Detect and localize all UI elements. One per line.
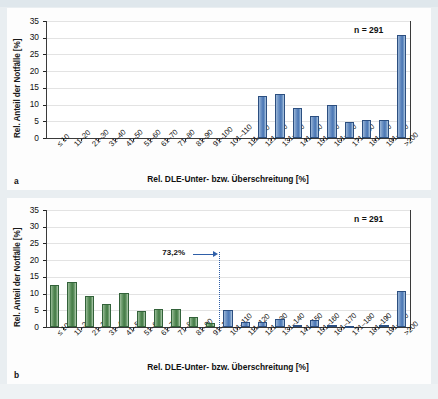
gridline xyxy=(46,121,410,122)
gridline xyxy=(46,260,410,261)
bar xyxy=(310,320,319,327)
y-axis-tick-label: 30 xyxy=(23,33,39,41)
page-top-strip xyxy=(0,0,438,7)
y-axis xyxy=(46,21,47,139)
bar xyxy=(85,296,94,327)
bar xyxy=(327,105,336,138)
cumulative-marker-label: 73,2% xyxy=(162,248,185,257)
y-axis-tick-label: 10 xyxy=(23,289,39,297)
gridline xyxy=(46,210,410,211)
y-axis-tick-label: 0 xyxy=(23,134,39,142)
y-axis-tick-label: 25 xyxy=(23,239,39,247)
y-axis-tick-label: 30 xyxy=(23,222,39,230)
gridline xyxy=(46,227,410,228)
cumulative-marker-line xyxy=(219,252,220,327)
bar xyxy=(362,120,371,138)
cumulative-marker-arrow-head xyxy=(213,251,218,257)
y-axis-tick-label: 35 xyxy=(23,206,39,214)
panel-letter-b: b xyxy=(14,370,19,380)
bar xyxy=(345,122,354,138)
gridline xyxy=(46,243,410,244)
y-axis-tick-label: 15 xyxy=(23,272,39,280)
cumulative-marker-arrow-line xyxy=(193,254,214,255)
y-axis-tick-label: 35 xyxy=(23,17,39,25)
bar xyxy=(258,96,267,138)
bar xyxy=(310,116,319,138)
gridline xyxy=(46,21,410,22)
gridline xyxy=(46,105,410,106)
y-axis xyxy=(46,210,47,328)
y-axis-tick-label: 0 xyxy=(23,323,39,331)
x-axis-title: Rel. DLE-Unter- bzw. Überschreitung [%] xyxy=(46,174,410,184)
gridline xyxy=(46,38,410,39)
plot-right-border xyxy=(410,21,411,139)
gridline xyxy=(46,88,410,89)
y-axis-tick-label: 20 xyxy=(23,256,39,264)
x-axis-title: Rel. DLE-Unter- bzw. Überschreitung [%] xyxy=(46,362,410,372)
bar xyxy=(293,108,302,138)
bar xyxy=(171,309,180,327)
y-axis-title: Rel. Anteil der Notfälle [%] xyxy=(13,39,22,138)
bar xyxy=(241,322,250,327)
bar xyxy=(119,293,128,327)
sample-size-label: n = 291 xyxy=(354,25,383,35)
sample-size-label: n = 291 xyxy=(354,214,383,224)
gridline xyxy=(46,277,410,278)
y-axis-tick-label: 25 xyxy=(23,50,39,58)
bar xyxy=(102,304,111,327)
gridline xyxy=(46,294,410,295)
bar xyxy=(397,35,406,138)
y-axis-title: Rel. Anteil der Notfälle [%] xyxy=(13,228,22,327)
bar xyxy=(154,309,163,327)
y-axis-tick-label: 15 xyxy=(23,83,39,91)
figure-sheet: 05101520253035≤ 1011–2021–3031–4041–5051… xyxy=(0,0,438,399)
chart-panel-a: 05101520253035≤ 1011–2021–3031–4041–5051… xyxy=(7,8,431,190)
figure-caption xyxy=(6,386,436,398)
panel-letter-a: a xyxy=(14,176,19,186)
chart-panel-b: 05101520253035≤ 1011–2021–3031–4041–5051… xyxy=(7,198,431,384)
plot-right-border xyxy=(410,210,411,328)
gridline xyxy=(46,54,410,55)
y-axis-tick-label: 5 xyxy=(23,117,39,125)
bar xyxy=(223,310,232,327)
bar xyxy=(379,120,388,138)
gridline xyxy=(46,71,410,72)
bar xyxy=(275,94,284,138)
bar xyxy=(189,317,198,327)
y-axis-tick-label: 20 xyxy=(23,67,39,75)
y-axis-tick-label: 5 xyxy=(23,306,39,314)
bar xyxy=(137,311,146,327)
bar xyxy=(397,291,406,327)
bar xyxy=(67,282,76,327)
y-axis-tick-label: 10 xyxy=(23,100,39,108)
bar xyxy=(50,285,59,327)
